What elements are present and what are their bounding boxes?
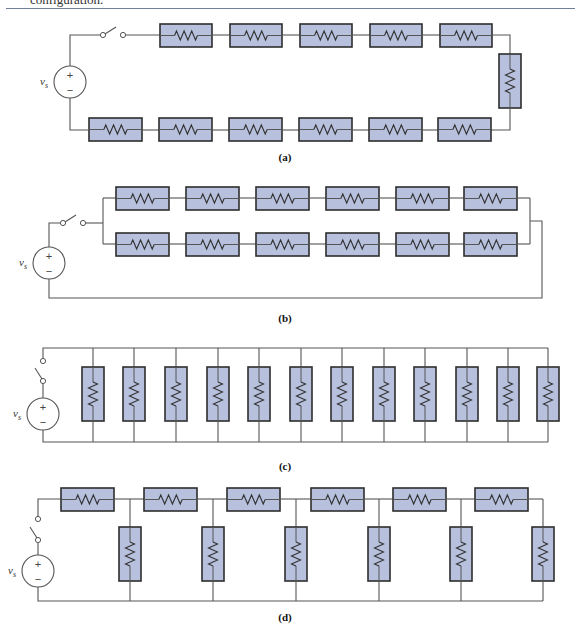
resistor [82,367,104,421]
minus-sign: − [46,265,52,277]
switch[interactable] [35,358,46,383]
resistor [290,367,312,421]
resistor [331,367,353,421]
resistor [499,54,521,108]
resistor [186,187,239,210]
resistor [497,367,519,421]
resistor [311,488,364,511]
resistor [532,527,554,581]
circuit-d: +−vs(d) [8,488,554,624]
resistor [368,527,390,581]
resistor [393,488,446,511]
wire [43,430,548,442]
resistor [370,24,422,47]
resistor [119,527,141,581]
figure-label-d: (d) [278,611,292,624]
resistor [373,367,395,421]
resistor [202,527,224,581]
switch-contact-icon [40,378,45,383]
figure-label-a: (a) [279,151,292,164]
resistor [89,118,142,141]
resistor [186,233,239,256]
minus-sign: − [35,573,41,585]
resistor [160,24,212,47]
switch-contact-icon [40,358,45,363]
resistor [369,118,422,141]
figure-label-c: (c) [279,460,292,473]
source-label-subscript: s [13,570,16,579]
switch-contact-icon [35,516,40,521]
resistor [256,187,309,210]
source-label: vs [13,407,21,422]
source-label: vs [40,75,48,90]
resistor [326,187,379,210]
switch[interactable] [30,516,41,542]
source-label: vs [19,256,27,271]
resistor [144,488,197,511]
circuit-a: +−vs(a) [40,24,521,164]
source-label: vs [8,564,16,579]
minus-sign: − [67,84,73,96]
wire [490,108,510,130]
switch-contact-icon [35,537,40,542]
plus-sign: + [46,250,52,262]
wire [70,35,100,66]
switch-contact-icon [100,32,105,37]
resistor [123,367,145,421]
resistor [537,367,559,421]
resistor [116,233,169,256]
resistor [227,488,280,511]
wire [49,223,60,247]
circuit-c: +−vs(c) [13,348,559,473]
resistor [396,233,449,256]
resistor [326,233,379,256]
resistor [229,118,282,141]
switch-blade-icon [30,527,37,538]
resistor [159,118,212,141]
wire [38,499,61,516]
wire [38,587,543,601]
resistor [207,367,229,421]
switch-blade-icon [65,215,76,222]
circuit-diagrams: +−vs(a)+−vs(b)+−vs(c)+−vs(d) [0,0,575,628]
switch[interactable] [100,27,125,38]
resistor [165,367,187,421]
source-label-subscript: s [24,262,27,271]
voltage-source: +−vs [8,555,54,587]
resistor [61,488,114,511]
resistor [475,488,528,511]
plus-sign: + [67,69,73,81]
wire [70,98,89,130]
resistor [456,367,478,421]
switch[interactable] [60,215,85,226]
resistor [464,233,517,256]
resistor [285,527,307,581]
resistor [396,187,449,210]
switch-contact-icon [60,220,65,225]
resistor [299,118,352,141]
resistor [248,367,270,421]
switch-blade-icon [105,27,116,34]
resistor [300,24,352,47]
resistor [116,187,169,210]
minus-sign: − [40,416,46,428]
voltage-source: +−vs [40,66,86,98]
switch-contact-icon [80,220,85,225]
voltage-source: +−vs [19,247,65,279]
source-label-subscript: s [18,413,21,422]
resistor [230,24,282,47]
circuit-b: +−vs(b) [19,187,542,325]
switch-blade-icon [35,368,42,379]
figure-label-b: (b) [278,312,292,325]
resistor [414,367,436,421]
resistor [450,527,472,581]
resistor [440,24,492,47]
resistor [464,187,517,210]
resistor [438,118,491,141]
wire [492,35,510,54]
wire [43,348,548,358]
source-label-subscript: s [45,81,48,90]
voltage-source: +−vs [13,398,59,430]
plus-sign: + [40,401,46,413]
plus-sign: + [35,558,41,570]
